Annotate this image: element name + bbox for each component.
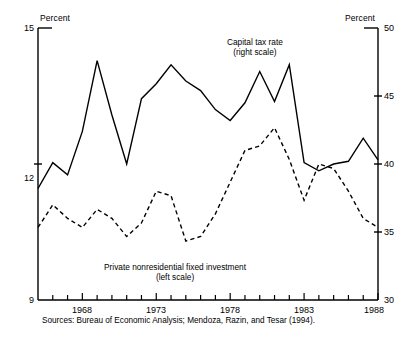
chart-figure: Percent Percent 15 12 9 50 45 40 35 30 1… bbox=[0, 0, 418, 346]
axis-frame bbox=[38, 28, 378, 300]
series-line-capital-tax-rate bbox=[38, 61, 378, 189]
axis-ticks bbox=[34, 96, 382, 300]
plot-canvas bbox=[0, 0, 418, 346]
series-line-private-investment bbox=[38, 128, 378, 241]
